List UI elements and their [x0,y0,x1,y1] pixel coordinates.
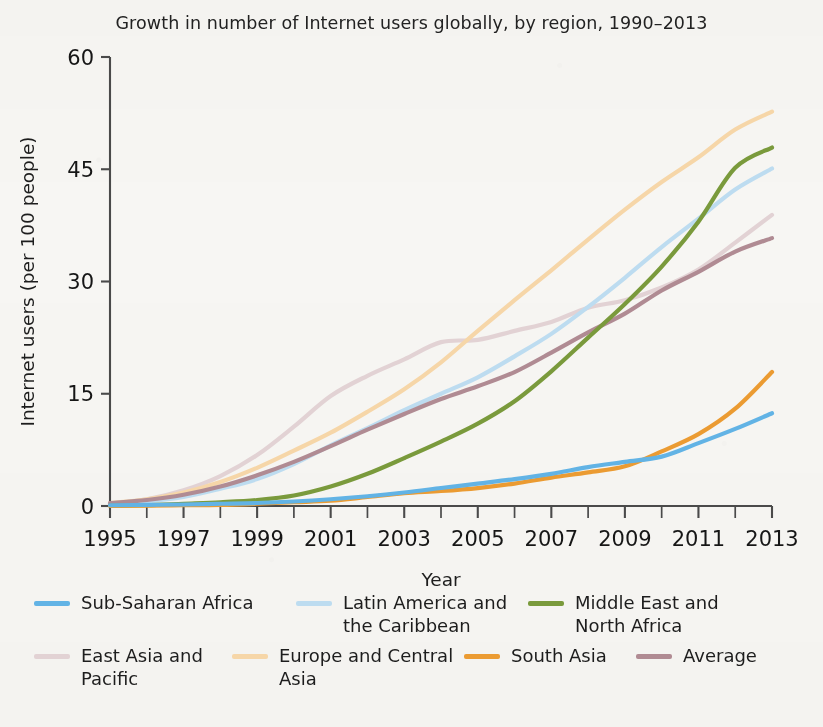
series-line-east-asia-and-pacific [110,215,772,504]
legend-swatch-icon [34,654,70,659]
legend-item-latin-america-and-the-caribbean[interactable]: Latin America and the Caribbean [296,592,528,637]
series-lines [110,112,772,506]
legend-swatch-icon [636,654,672,659]
legend-row: Sub-Saharan AfricaLatin America and the … [34,592,804,637]
x-axis-title: Year [420,569,461,590]
y-tick-label: 60 [67,46,94,70]
x-tick-label: 1995 [83,527,136,551]
axis-labels: 0153045601995199719992001200320052007200… [17,46,799,591]
y-tick-label: 45 [67,158,94,182]
y-tick-label: 0 [81,495,94,519]
legend-item-sub-saharan-africa[interactable]: Sub-Saharan Africa [34,592,296,615]
series-line-average [110,238,772,503]
x-tick-label: 1999 [230,527,283,551]
legend-label: Sub-Saharan Africa [81,592,254,615]
legend-label: Latin America and the Caribbean [343,592,507,637]
legend-item-south-asia[interactable]: South Asia [464,645,636,668]
legend-swatch-icon [232,654,268,659]
legend-item-east-asia-and-pacific[interactable]: East Asia and Pacific [34,645,232,690]
legend-label: Middle East and North Africa [575,592,719,637]
x-tick-label: 2007 [525,527,578,551]
chart-legend: Sub-Saharan AfricaLatin America and the … [34,592,804,699]
x-tick-label: 2011 [672,527,725,551]
legend-item-average[interactable]: Average [636,645,786,668]
legend-swatch-icon [464,654,500,659]
legend-item-middle-east-and-north-africa[interactable]: Middle East and North Africa [528,592,768,637]
x-tick-label: 2005 [451,527,504,551]
y-tick-label: 30 [67,270,94,294]
legend-swatch-icon [34,601,70,606]
legend-label: Average [683,645,757,668]
legend-swatch-icon [528,601,564,606]
y-tick-label: 15 [67,382,94,406]
x-tick-label: 2009 [598,527,651,551]
legend-row: East Asia and PacificEurope and Central … [34,645,804,690]
chart-figure: Growth in number of Internet users globa… [0,0,823,727]
x-tick-label: 2001 [304,527,357,551]
y-axis-title: Internet users (per 100 people) [17,136,38,426]
x-tick-label: 2013 [745,527,798,551]
x-tick-label: 2003 [377,527,430,551]
legend-label: Europe and Central Asia [279,645,453,690]
x-tick-label: 1997 [157,527,210,551]
legend-label: South Asia [511,645,607,668]
legend-item-europe-and-central-asia[interactable]: Europe and Central Asia [232,645,464,690]
legend-label: East Asia and Pacific [81,645,203,690]
series-line-europe-and-central-asia [110,112,772,503]
line-chart-plot: 0153045601995199719992001200320052007200… [0,0,823,592]
legend-swatch-icon [296,601,332,606]
